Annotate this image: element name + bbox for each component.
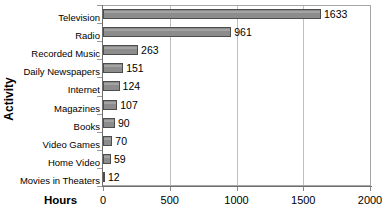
x-axis-tick-label: 1000: [224, 193, 248, 207]
y-axis-tick: [97, 168, 102, 169]
bar[interactable]: [103, 27, 231, 37]
bars-layer: 163396126315112410790705912: [103, 6, 370, 185]
bar-highlight: [104, 102, 116, 104]
plot-area: 163396126315112410790705912: [102, 5, 371, 186]
bar-value-label: 124: [123, 79, 141, 93]
bar[interactable]: [103, 63, 123, 73]
bar-value-label: 1633: [324, 7, 347, 21]
x-axis-tick: [103, 187, 104, 191]
bar[interactable]: [103, 81, 120, 91]
bar[interactable]: [103, 45, 138, 55]
bar[interactable]: [103, 136, 112, 146]
bar-value-label: 263: [141, 43, 159, 57]
bar-highlight: [104, 65, 122, 67]
bar-highlight: [104, 11, 320, 13]
y-axis-tick: [97, 77, 102, 78]
y-axis-tick: [97, 150, 102, 151]
y-axis-tick: [97, 114, 102, 115]
y-axis-tick-label: Magazines: [12, 103, 100, 114]
bar-row: 151: [103, 60, 370, 78]
bar-value-label: 151: [126, 61, 144, 75]
y-axis-tick: [97, 5, 102, 6]
y-axis-tick: [97, 96, 102, 97]
y-axis-tick-label: Home Video: [12, 157, 100, 168]
x-axis-title: Hours: [44, 193, 77, 207]
y-axis-tick-labels: TelevisionRadioRecorded MusicDaily Newsp…: [12, 9, 100, 186]
bar-value-label: 107: [120, 98, 138, 112]
y-axis-tick-label: Daily Newspapers: [12, 66, 100, 77]
bar-row: 263: [103, 42, 370, 60]
bar[interactable]: [103, 154, 111, 164]
bar-highlight: [104, 83, 119, 85]
y-axis-tick-label: Recorded Music: [12, 48, 100, 59]
bar[interactable]: [103, 9, 321, 19]
y-axis-tick-label: Radio: [12, 30, 100, 41]
y-axis-tick: [97, 59, 102, 60]
x-axis-tick: [303, 187, 304, 191]
bar-row: 961: [103, 24, 370, 42]
bar-value-label: 70: [115, 134, 127, 148]
y-axis-tick-label: Video Games: [12, 139, 100, 150]
x-axis-tick: [370, 187, 371, 191]
bar-chart: Activity TelevisionRadioRecorded MusicDa…: [0, 0, 390, 214]
bar-value-label: 90: [118, 116, 130, 130]
bar-highlight: [104, 29, 230, 31]
x-axis-tick-label: 1500: [291, 193, 315, 207]
bar-highlight: [104, 138, 111, 140]
y-axis-tick-label: Television: [12, 12, 100, 23]
bar-value-label: 12: [108, 170, 120, 184]
bar[interactable]: [103, 118, 115, 128]
bar-row: 1633: [103, 6, 370, 24]
y-axis-tick-label: Internet: [12, 84, 100, 95]
y-axis-line: [102, 5, 103, 187]
bar-highlight: [104, 47, 137, 49]
bar-value-label: 59: [114, 152, 126, 166]
bar[interactable]: [103, 100, 117, 110]
x-axis-tick: [237, 187, 238, 191]
y-axis-tick-label: Movies in Theaters: [12, 175, 100, 186]
bar-value-label: 961: [234, 25, 252, 39]
bar-row: 59: [103, 151, 370, 169]
y-axis-tick: [97, 23, 102, 24]
y-axis-tick: [97, 132, 102, 133]
bar[interactable]: [103, 172, 105, 182]
y-axis-tick-label: Books: [12, 121, 100, 132]
bar-highlight: [104, 120, 114, 122]
x-axis-tick-label: 0: [100, 193, 106, 207]
bar-row: 90: [103, 115, 370, 133]
x-axis-tick: [170, 187, 171, 191]
bar-row: 124: [103, 78, 370, 96]
x-axis-tick-label: 500: [161, 193, 179, 207]
bar-row: 70: [103, 133, 370, 151]
bar-highlight: [104, 156, 110, 158]
bar-row: 107: [103, 97, 370, 115]
y-axis-tick: [97, 41, 102, 42]
x-axis-tick-label: 2000: [358, 193, 382, 207]
bar-row: 12: [103, 169, 370, 187]
y-axis-tick: [97, 186, 102, 187]
